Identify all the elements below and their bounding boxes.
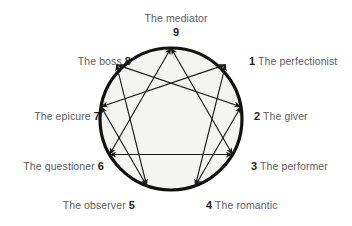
point-1-number: 1 bbox=[249, 55, 255, 67]
enneagram-point-9: The mediator9 bbox=[144, 12, 207, 39]
enneagram-circle bbox=[100, 48, 242, 190]
point-2-label: The giver bbox=[263, 110, 308, 122]
point-7-number: 7 bbox=[94, 110, 100, 122]
point-6-label: The questioner bbox=[23, 160, 94, 172]
point-4-label: The romantic bbox=[215, 199, 277, 211]
point-6-number: 6 bbox=[98, 160, 104, 172]
enneagram-point-5: The observer 5 bbox=[63, 199, 135, 212]
point-3-number: 3 bbox=[251, 160, 257, 172]
point-5-number: 5 bbox=[129, 199, 135, 211]
enneagram-point-2: 2 The giver bbox=[254, 110, 308, 123]
point-3-label: The performer bbox=[260, 160, 328, 172]
enneagram-point-4: 4 The romantic bbox=[206, 199, 278, 212]
enneagram-point-1: 1 The perfectionist bbox=[249, 55, 337, 68]
point-8-number: 8 bbox=[125, 55, 131, 67]
point-5-label: The observer bbox=[63, 199, 126, 211]
enneagram-point-7: The epicure 7 bbox=[34, 110, 100, 123]
point-2-number: 2 bbox=[254, 110, 260, 122]
enneagram-diagram: The mediator9 1 The perfectionist 2 The … bbox=[0, 0, 352, 226]
enneagram-point-8: The boss 8 bbox=[78, 55, 131, 68]
point-8-label: The boss bbox=[78, 55, 122, 67]
enneagram-point-6: The questioner 6 bbox=[23, 160, 104, 173]
point-9-label: The mediator bbox=[144, 12, 207, 24]
point-7-label: The epicure bbox=[34, 110, 91, 122]
point-4-number: 4 bbox=[206, 199, 212, 211]
point-9-number: 9 bbox=[144, 26, 207, 39]
enneagram-point-3: 3 The performer bbox=[251, 160, 328, 173]
point-1-label: The perfectionist bbox=[258, 55, 337, 67]
